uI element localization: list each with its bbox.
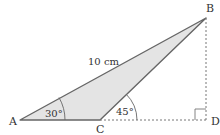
vertex-label-c: C: [96, 123, 104, 135]
triangle-abc: [20, 18, 206, 120]
vertex-label-a: A: [8, 115, 18, 128]
vertex-label-d: D: [211, 115, 220, 128]
side-length-ab: 10 cm: [88, 56, 120, 67]
triangle-diagram: A B C D 10 cm 30° 45°: [0, 0, 220, 135]
vertex-label-b: B: [206, 2, 214, 15]
angle-label-c: 45°: [116, 106, 134, 117]
angle-label-a: 30°: [45, 108, 63, 119]
right-angle-marker: [195, 109, 206, 120]
